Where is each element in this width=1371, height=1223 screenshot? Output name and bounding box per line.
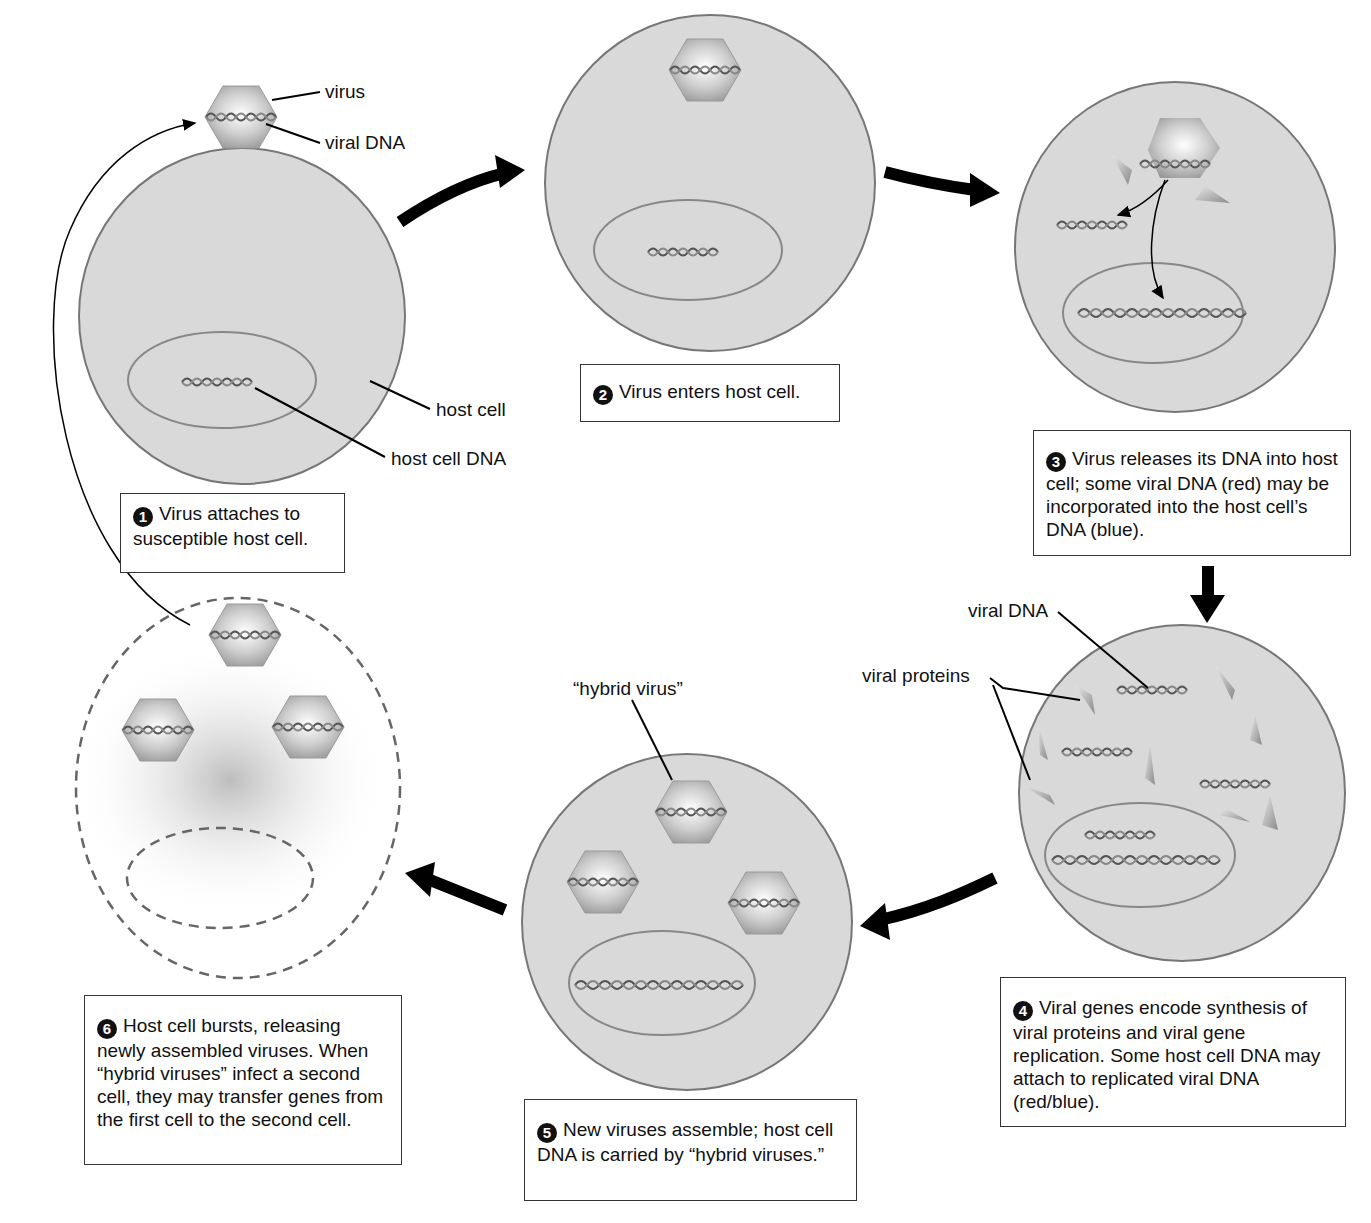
- host-cell-dna-label: host cell DNA: [391, 448, 506, 470]
- host-cell-label: host cell: [436, 399, 506, 421]
- virus-label: virus: [325, 81, 365, 103]
- step3-host-cell: [1015, 82, 1335, 412]
- step1-text: Virus attaches to susceptible host cell.: [133, 503, 308, 549]
- step3-text: Virus releases its DNA into host cell; s…: [1046, 448, 1338, 540]
- step5-text: New viruses assemble; host cell DNA is c…: [537, 1119, 833, 1165]
- step4-text: Viral genes encode synthesis of viral pr…: [1013, 997, 1320, 1112]
- step4-caption: 4Viral genes encode synthesis of viral p…: [1000, 977, 1346, 1127]
- step2-text: Virus enters host cell.: [619, 381, 800, 402]
- step-number-badge: 6: [97, 1019, 117, 1039]
- step-number-badge: 1: [133, 507, 153, 527]
- step1-host-cell: [79, 148, 405, 484]
- viral-dna-label: viral DNA: [325, 132, 405, 154]
- viral-dna-step4-label: viral DNA: [968, 600, 1048, 622]
- viral-proteins-label: viral proteins: [862, 665, 970, 687]
- hybrid-virus-label: “hybrid virus”: [573, 678, 683, 700]
- step6-caption: 6Host cell bursts, releasing newly assem…: [84, 995, 402, 1165]
- step5-caption: 5New viruses assemble; host cell DNA is …: [524, 1099, 857, 1201]
- step-number-badge: 5: [537, 1123, 557, 1143]
- step1-caption: 1Virus attaches to susceptible host cell…: [120, 493, 345, 573]
- step6-text: Host cell bursts, releasing newly assemb…: [97, 1015, 383, 1130]
- step2-caption: 2Virus enters host cell.: [580, 364, 840, 422]
- step4-host-cell: [1019, 625, 1345, 961]
- step6-burst-cell: [70, 598, 400, 978]
- step1-virus-icon: [205, 86, 277, 148]
- step-number-badge: 4: [1013, 1001, 1033, 1021]
- step5-host-cell: [522, 754, 852, 1090]
- step3-caption: 3Virus releases its DNA into host cell; …: [1033, 430, 1351, 556]
- step2-host-cell: [545, 15, 875, 351]
- step-number-badge: 3: [1046, 452, 1066, 472]
- step-number-badge: 2: [593, 385, 613, 405]
